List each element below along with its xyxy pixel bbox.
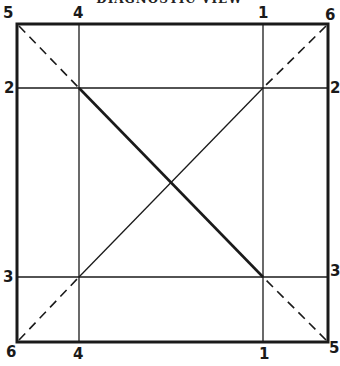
label-right-3: 3 [330,262,340,280]
label-bottom-right: 5 [329,339,339,357]
label-bottom-left: 6 [6,343,16,361]
label-left-3: 3 [3,268,13,286]
label-bottom-1: 1 [259,345,269,363]
label-top-4: 4 [73,4,83,22]
dashed-diagonal-bottom-right [263,277,326,340]
label-top-left: 5 [3,4,13,22]
label-top-1: 1 [258,4,268,22]
dashed-diagonal-top-left [19,26,79,88]
dashed-diagonal-bottom-left [19,277,79,340]
dashed-diagonal-top-right [263,26,326,88]
label-right-2: 2 [330,79,340,97]
label-left-2: 2 [4,79,14,97]
label-top-right: 6 [325,6,335,24]
label-bottom-4: 4 [73,345,83,363]
